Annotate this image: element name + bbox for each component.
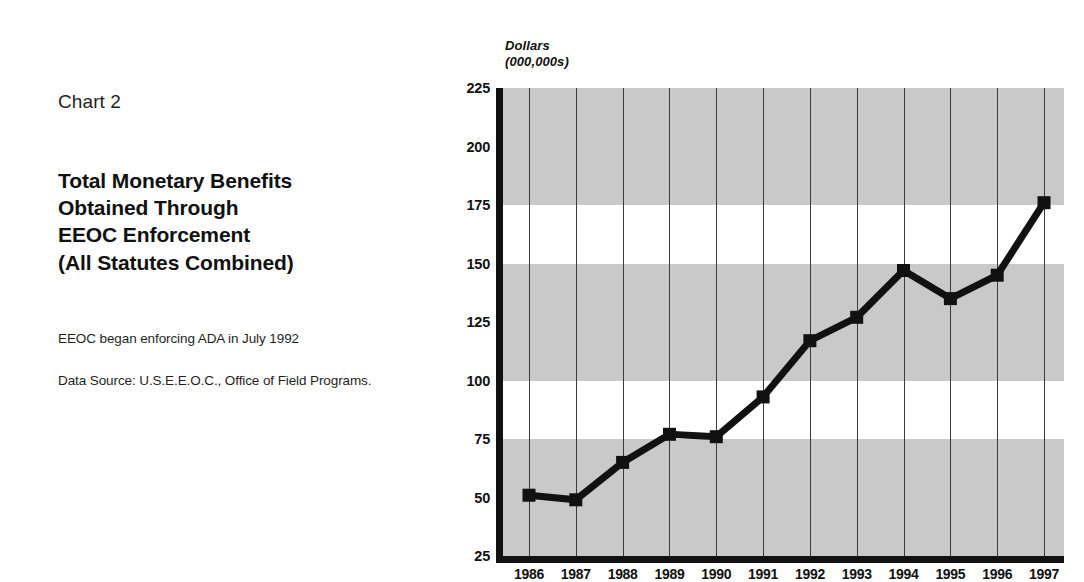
y-tick-label: 50 — [474, 490, 490, 506]
note-data-source: Data Source: U.S.E.E.O.C., Office of Fie… — [58, 373, 438, 389]
x-tick-label: 1994 — [889, 566, 919, 582]
gridline-vertical — [763, 88, 764, 556]
y-axis-unit-label: Dollars (000,000s) — [505, 38, 569, 71]
x-tick-label: 1995 — [935, 566, 965, 582]
y-tick-label: 225 — [466, 80, 490, 96]
chart-title-line-4: (All Statutes Combined) — [58, 249, 438, 276]
gridline-vertical — [716, 88, 717, 556]
x-tick-label: 1996 — [982, 566, 1012, 582]
y-axis-line — [496, 88, 503, 563]
y-axis-unit-line-1: Dollars — [505, 38, 569, 54]
x-axis-line — [496, 556, 1064, 563]
x-tick-label: 1988 — [608, 566, 638, 582]
chart-figure: Dollars (000,000s) 255075100125150175200… — [446, 30, 1070, 570]
gridline-vertical — [810, 88, 811, 556]
grid-band — [503, 88, 1064, 205]
grid-band — [503, 264, 1064, 381]
gridline-vertical — [576, 88, 577, 556]
plot-area — [496, 88, 1064, 563]
y-tick-label: 125 — [466, 314, 490, 330]
gridline-vertical — [529, 88, 530, 556]
y-tick-label: 75 — [474, 431, 490, 447]
chart-title-line-1: Total Monetary Benefits — [58, 167, 438, 194]
grid-band — [503, 439, 1064, 556]
chart-title: Total Monetary Benefits Obtained Through… — [58, 167, 438, 276]
x-tick-label: 1997 — [1029, 566, 1059, 582]
x-tick-label: 1991 — [748, 566, 778, 582]
y-axis-unit-line-2: (000,000s) — [505, 54, 569, 70]
chart-title-line-3: EEOC Enforcement — [58, 221, 438, 248]
x-tick-label: 1989 — [654, 566, 684, 582]
x-tick-label: 1987 — [561, 566, 591, 582]
y-tick-label: 150 — [466, 256, 490, 272]
y-tick-label: 200 — [466, 139, 490, 155]
y-tick-label: 25 — [474, 548, 490, 564]
chart-title-line-2: Obtained Through — [58, 194, 438, 221]
chart-number-label: Chart 2 — [58, 92, 438, 113]
gridline-vertical — [950, 88, 951, 556]
x-tick-label: 1992 — [795, 566, 825, 582]
x-tick-label: 1986 — [514, 566, 544, 582]
y-axis-tick-labels: 255075100125150175200225 — [446, 88, 490, 556]
note-ada-enforcement: EEOC began enforcing ADA in July 1992 — [58, 331, 438, 347]
gridline-vertical — [669, 88, 670, 556]
gridline-vertical — [1044, 88, 1045, 556]
gridline-vertical — [997, 88, 998, 556]
gridline-vertical — [904, 88, 905, 556]
x-tick-label: 1990 — [701, 566, 731, 582]
plot-canvas — [503, 88, 1064, 556]
y-tick-label: 100 — [466, 373, 490, 389]
chart-notes: EEOC began enforcing ADA in July 1992 Da… — [58, 331, 438, 389]
x-tick-label: 1993 — [842, 566, 872, 582]
gridline-vertical — [857, 88, 858, 556]
chart-text-column: Chart 2 Total Monetary Benefits Obtained… — [58, 92, 438, 415]
y-tick-label: 175 — [466, 197, 490, 213]
gridline-vertical — [623, 88, 624, 556]
